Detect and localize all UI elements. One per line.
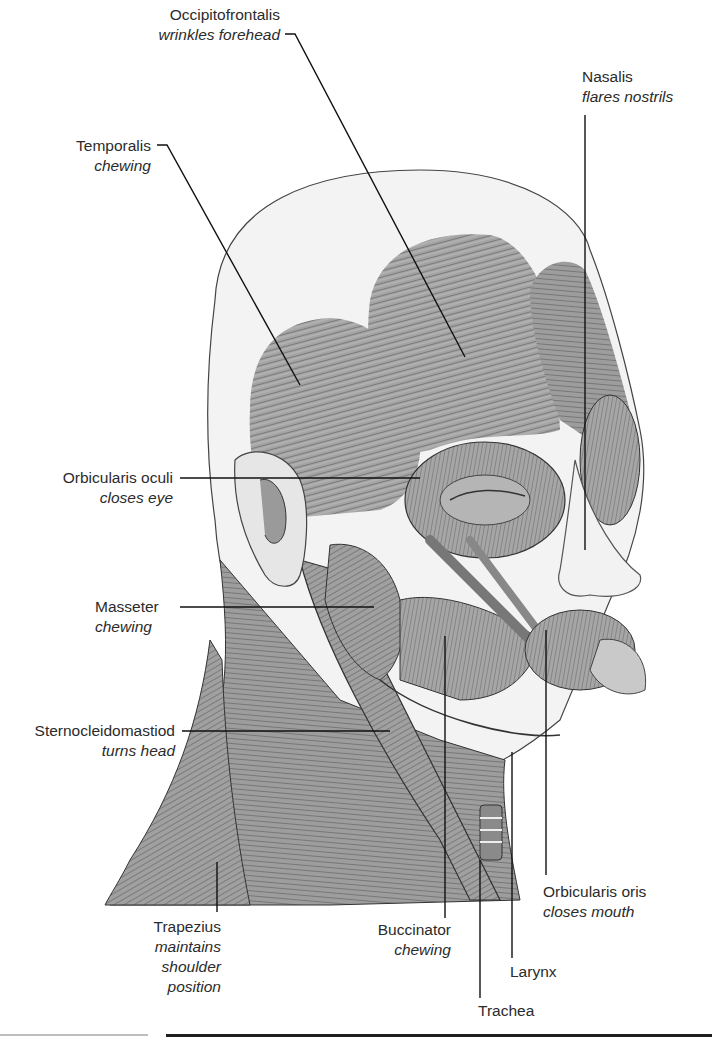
label-name: Trapezius	[154, 917, 221, 937]
label-function: chewing	[76, 156, 151, 176]
label-buccinator: Buccinator chewing	[378, 920, 451, 960]
label-name: Occipitofrontalis	[159, 5, 280, 25]
label-function-line: maintains	[154, 937, 221, 957]
label-name: Nasalis	[582, 67, 673, 87]
label-name: Larynx	[510, 962, 557, 982]
label-occipitofrontalis: Occipitofrontalis wrinkles forehead	[159, 5, 280, 45]
label-function: closes mouth	[543, 902, 646, 922]
label-name: Sternocleidomastiod	[35, 721, 175, 741]
label-function: wrinkles forehead	[159, 25, 280, 45]
label-masseter: Masseter chewing	[95, 597, 159, 637]
label-temporalis: Temporalis chewing	[76, 136, 151, 176]
label-trachea: Trachea	[478, 1001, 534, 1021]
label-name: Temporalis	[76, 136, 151, 156]
label-function: turns head	[35, 741, 175, 761]
label-larynx: Larynx	[510, 962, 557, 982]
label-function: chewing	[378, 940, 451, 960]
label-function-line: shoulder	[154, 957, 221, 977]
label-function-line: position	[154, 977, 221, 997]
label-function: chewing	[95, 617, 159, 637]
label-orbicularis-oculi: Orbicularis oculi closes eye	[63, 468, 173, 508]
bottom-rule-right	[166, 1034, 712, 1037]
label-orbicularis-oris: Orbicularis oris closes mouth	[543, 882, 646, 922]
trachea-rings	[480, 805, 502, 860]
bottom-rule-left	[0, 1034, 148, 1036]
occipitofrontalis-muscle	[368, 234, 560, 460]
label-name: Orbicularis oris	[543, 882, 646, 902]
label-nasalis: Nasalis flares nostrils	[582, 67, 673, 107]
label-name: Buccinator	[378, 920, 451, 940]
label-function: flares nostrils	[582, 87, 673, 107]
label-function: closes eye	[63, 488, 173, 508]
label-sternocleidomastiod: Sternocleidomastiod turns head	[35, 721, 175, 761]
label-name: Masseter	[95, 597, 159, 617]
label-name: Orbicularis oculi	[63, 468, 173, 488]
eye-lid	[440, 475, 530, 525]
label-name: Trachea	[478, 1001, 534, 1021]
label-trapezius: Trapezius maintains shoulder position	[154, 917, 221, 997]
